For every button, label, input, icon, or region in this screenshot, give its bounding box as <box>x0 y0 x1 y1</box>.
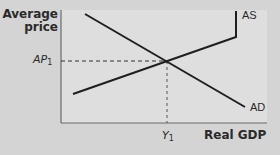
as-curve-label: AS <box>242 9 257 21</box>
y-axis-label-line2: price <box>0 21 58 34</box>
ap1-subscript: 1 <box>47 58 52 67</box>
y-axis-label: Average price <box>0 8 58 34</box>
ap1-base: AP <box>33 53 47 66</box>
y1-subscript: 1 <box>169 134 174 143</box>
y1-base: Y <box>162 129 169 142</box>
ad-curve-label: AD <box>250 101 265 113</box>
x-axis-label: Real GDP <box>204 128 266 142</box>
y1-tick-label: Y1 <box>162 129 174 143</box>
ap1-tick-label: AP1 <box>33 53 52 67</box>
